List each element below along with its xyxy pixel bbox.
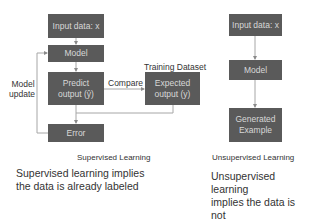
unsupervised-caption: Unsupervised Learning <box>212 153 294 162</box>
model-update-label: Model update <box>11 79 35 99</box>
supervised-description-line1: Supervised learning implies <box>16 167 144 180</box>
predict-output-box: Predict output (ŷ) <box>48 72 104 105</box>
compare-label: Compare <box>108 78 143 88</box>
predict-output-label: output (ŷ) <box>58 89 94 100</box>
supervised-caption: Supervised Learning <box>77 153 150 162</box>
unsup-input-data-label: Input data: x <box>232 20 279 31</box>
model-update-line2: update <box>9 89 35 99</box>
model-box: Model <box>48 45 104 62</box>
error-label: Error <box>67 128 86 139</box>
supervised-description-line2: the data is already labeled <box>16 180 144 193</box>
supervised-description: Supervised learning implies the data is … <box>16 167 144 193</box>
model-label: Model <box>64 48 87 59</box>
example-label: Example <box>239 125 272 136</box>
input-data-box: Input data: x <box>48 14 104 38</box>
model-update-line1: Model <box>11 79 35 89</box>
generated-example-box: Generated Example <box>229 108 282 142</box>
error-box: Error <box>48 124 104 142</box>
expected-output-label: output (y) <box>155 89 191 100</box>
unsup-model-label: Model <box>244 65 267 76</box>
expected-label: Expected <box>155 78 190 89</box>
unsupervised-description-line2: implies the data is not <box>211 196 309 221</box>
input-data-label: Input data: x <box>53 21 100 32</box>
predict-label: Predict <box>63 78 89 89</box>
training-dataset-label: Training Dataset <box>144 62 206 72</box>
generated-label: Generated <box>235 114 275 125</box>
unsupervised-description: Unsupervised learning implies the data i… <box>211 170 309 221</box>
unsup-model-box: Model <box>229 60 282 80</box>
unsupervised-description-line1: Unsupervised learning <box>211 170 309 196</box>
unsup-input-data-box: Input data: x <box>229 14 282 36</box>
expected-output-box: Expected output (y) <box>145 72 200 105</box>
